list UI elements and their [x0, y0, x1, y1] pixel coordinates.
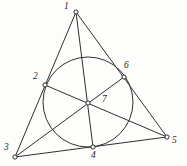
geometry-canvas — [0, 0, 187, 166]
triangle-sides — [15, 12, 167, 157]
point-marker-2 — [43, 83, 47, 87]
point-label-5: 5 — [172, 136, 177, 146]
point-marker-7 — [86, 101, 90, 105]
point-label-6: 6 — [124, 61, 129, 71]
geometry-figure: 1 2 3 4 5 6 7 — [0, 0, 187, 166]
point-marker-5 — [165, 135, 169, 139]
point-label-7: 7 — [102, 95, 107, 105]
point-label-3: 3 — [4, 143, 9, 153]
point-label-2: 2 — [33, 72, 38, 82]
cevian-2-5 — [45, 85, 167, 137]
point-label-1: 1 — [64, 2, 69, 12]
point-marker-3 — [13, 155, 17, 159]
point-label-4: 4 — [91, 151, 96, 161]
point-marker-1 — [74, 10, 78, 14]
cevians — [15, 12, 167, 157]
point-marker-4 — [91, 145, 95, 149]
point-marker-6 — [122, 75, 126, 79]
